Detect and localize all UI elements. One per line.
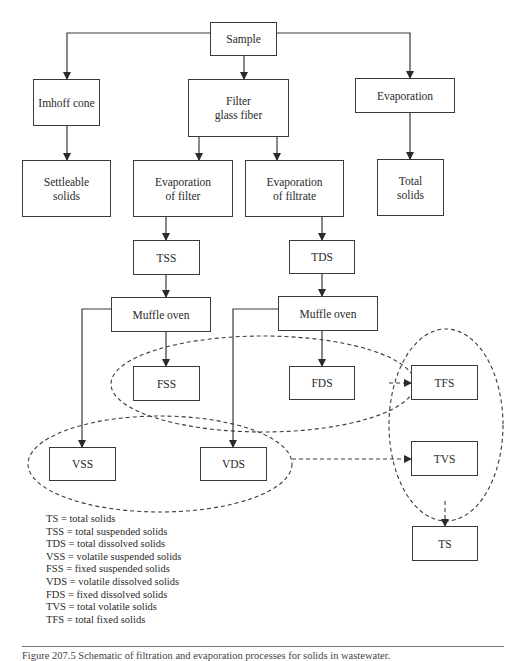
node-evaporation: Evaporation bbox=[355, 78, 455, 113]
node-evaporation-of-filtrate: Evaporation of filtrate bbox=[245, 160, 344, 217]
node-label: Imhoff cone bbox=[38, 96, 94, 110]
node-evaporation-of-filter: Evaporation of filter bbox=[133, 160, 233, 217]
node-label: Evaporation bbox=[377, 89, 433, 103]
total-solids-group bbox=[389, 329, 503, 521]
node-sample: Sample bbox=[210, 22, 277, 56]
node-vds: VDS bbox=[200, 447, 267, 481]
node-label: TSS bbox=[157, 251, 177, 265]
node-muffle-oven-left: Muffle oven bbox=[111, 297, 211, 332]
node-label: Settleable solids bbox=[44, 175, 89, 203]
node-tds: TDS bbox=[289, 240, 355, 274]
legend-item: FSS = fixed suspended solids bbox=[46, 563, 181, 576]
node-total-solids: Total solids bbox=[377, 159, 444, 216]
node-ts: TS bbox=[412, 526, 478, 561]
legend-item: VDS = volatile dissolved solids bbox=[46, 576, 181, 589]
node-label: Muffle oven bbox=[300, 307, 357, 321]
node-label: VDS bbox=[222, 457, 245, 471]
arrow-sample-to-evaporation bbox=[277, 33, 410, 78]
legend-item: TDS = total dissolved solids bbox=[46, 538, 181, 551]
arrow-sample-to-imhoff bbox=[67, 33, 210, 79]
legend-item: TFS = total fixed solids bbox=[46, 614, 181, 627]
node-fss: FSS bbox=[133, 366, 200, 401]
node-tss: TSS bbox=[133, 240, 200, 275]
legend-item: VSS = volatile suspended solids bbox=[46, 551, 181, 564]
node-muffle-oven-right: Muffle oven bbox=[278, 296, 378, 331]
node-label: Muffle oven bbox=[133, 308, 190, 322]
node-label: Sample bbox=[226, 32, 261, 46]
node-label: FSS bbox=[157, 377, 176, 391]
node-vss: VSS bbox=[49, 447, 116, 481]
node-label: FDS bbox=[311, 376, 332, 390]
node-label: Evaporation of filter bbox=[155, 175, 211, 203]
legend-item: TSS = total suspended solids bbox=[46, 526, 181, 539]
legend-item: TVS = total volatile solids bbox=[46, 601, 181, 614]
node-filter-glass-fiber: Filter glass fiber bbox=[188, 79, 289, 137]
node-tvs: TVS bbox=[411, 441, 478, 476]
node-label: Filter glass fiber bbox=[215, 94, 263, 122]
node-label: TS bbox=[438, 537, 451, 551]
abbreviation-legend: TS = total solids TSS = total suspended … bbox=[46, 513, 181, 626]
node-imhoff-cone: Imhoff cone bbox=[33, 79, 100, 126]
node-label: TFS bbox=[435, 376, 455, 390]
legend-item: TS = total solids bbox=[46, 513, 181, 526]
node-label: TDS bbox=[311, 250, 333, 264]
node-label: Evaporation of filtrate bbox=[266, 175, 322, 203]
arrow-muffle-to-vss bbox=[82, 309, 111, 447]
node-tfs: TFS bbox=[411, 365, 478, 400]
node-label: VSS bbox=[72, 457, 93, 471]
node-label: Total solids bbox=[397, 174, 424, 202]
legend-item: FDS = fixed dissolved solids bbox=[46, 589, 181, 602]
node-fds: FDS bbox=[289, 366, 355, 400]
caption-divider bbox=[22, 646, 504, 647]
node-label: TVS bbox=[434, 452, 456, 466]
figure-caption: Figure 207.5 Schematic of filtration and… bbox=[22, 650, 390, 661]
node-settleable-solids: Settleable solids bbox=[22, 160, 111, 217]
